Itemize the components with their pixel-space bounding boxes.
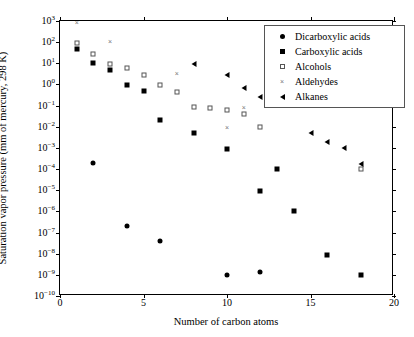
y-axis-tick-label: 10−6 bbox=[38, 206, 55, 216]
data-point bbox=[358, 167, 363, 172]
data-point bbox=[108, 67, 113, 72]
legend-label: Aldehydes bbox=[295, 76, 338, 87]
data-point: × bbox=[224, 123, 231, 130]
y-axis-tick-right bbox=[392, 190, 396, 191]
data-point bbox=[174, 89, 179, 94]
data-point bbox=[258, 269, 263, 274]
x-axis-tick-label: 10 bbox=[222, 298, 232, 308]
legend-label: Alkanes bbox=[295, 91, 328, 102]
data-point bbox=[158, 83, 163, 88]
y-axis-tick-label: 10−9 bbox=[38, 270, 55, 280]
data-point bbox=[108, 62, 113, 67]
data-point bbox=[191, 104, 196, 109]
data-point bbox=[124, 83, 129, 88]
data-point bbox=[124, 66, 129, 71]
data-point bbox=[225, 272, 230, 277]
legend-label: Dicarboxylic acids bbox=[295, 31, 370, 42]
data-point bbox=[358, 272, 363, 277]
legend-entry: Alkanes bbox=[269, 89, 400, 104]
legend-marker-cross-icon: × bbox=[269, 78, 295, 85]
data-point bbox=[208, 105, 213, 110]
legend-marker-filled-circle-icon bbox=[269, 34, 295, 39]
legend-marker-left-triangle-icon bbox=[269, 94, 295, 100]
data-point bbox=[225, 72, 230, 78]
y-axis-tick-right bbox=[392, 254, 396, 255]
y-axis-tick-right bbox=[392, 21, 396, 22]
y-axis-tick-label: 10−5 bbox=[38, 185, 55, 195]
legend-entry: ×Aldehydes bbox=[269, 74, 400, 89]
data-point bbox=[241, 112, 246, 117]
data-point bbox=[275, 167, 280, 172]
x-axis-tick-label: 20 bbox=[389, 298, 399, 308]
legend-entry: Alcohols bbox=[269, 59, 400, 74]
y-axis-title: Saturation vapor pressure (mm of mercury… bbox=[0, 23, 8, 293]
data-point bbox=[325, 139, 330, 145]
y-axis-tick-right bbox=[392, 169, 396, 170]
data-point: × bbox=[107, 38, 114, 45]
data-point bbox=[325, 252, 330, 257]
y-axis-tick-label: 100 bbox=[42, 79, 56, 89]
data-point bbox=[291, 209, 296, 214]
data-point: × bbox=[73, 21, 80, 25]
chart-legend: Dicarboxylic acidsCarboxylic acidsAlcoho… bbox=[264, 25, 405, 108]
data-point bbox=[225, 146, 230, 151]
y-axis-tick-right bbox=[392, 233, 396, 234]
data-point bbox=[158, 118, 163, 123]
legend-marker-open-square-icon bbox=[269, 64, 295, 69]
legend-entry: Dicarboxylic acids bbox=[269, 29, 400, 44]
legend-entry: Carboxylic acids bbox=[269, 44, 400, 59]
data-point bbox=[258, 94, 263, 100]
data-point bbox=[74, 40, 79, 45]
y-axis-tick-right bbox=[392, 127, 396, 128]
y-axis-tick-label: 101 bbox=[42, 58, 56, 68]
y-axis-tick-right bbox=[392, 211, 396, 212]
data-point bbox=[225, 108, 230, 113]
data-point bbox=[74, 46, 79, 51]
x-axis-tick-label: 15 bbox=[306, 298, 316, 308]
chart-figure: Saturation vapor pressure (mm of mercury… bbox=[0, 0, 414, 337]
legend-label: Alcohols bbox=[295, 61, 331, 72]
x-axis-tick-label: 0 bbox=[58, 298, 63, 308]
data-point bbox=[191, 61, 196, 67]
data-point bbox=[141, 89, 146, 94]
y-axis-tick-label: 103 bbox=[42, 16, 56, 26]
data-point bbox=[91, 52, 96, 57]
data-point bbox=[158, 238, 163, 243]
y-axis-tick-label: 10−8 bbox=[38, 249, 55, 259]
data-point bbox=[191, 131, 196, 136]
data-point: × bbox=[240, 103, 247, 110]
x-axis-tick-label: 5 bbox=[141, 298, 146, 308]
data-point bbox=[141, 73, 146, 78]
data-point bbox=[258, 124, 263, 129]
data-point: × bbox=[173, 69, 180, 76]
data-point bbox=[91, 160, 96, 165]
y-axis-tick-right bbox=[392, 148, 396, 149]
y-axis-tick-right bbox=[392, 275, 396, 276]
data-point bbox=[308, 130, 313, 136]
data-point bbox=[241, 85, 246, 91]
y-axis-tick-label: 10−10 bbox=[34, 291, 55, 301]
y-axis-tick-label: 10−1 bbox=[38, 101, 55, 111]
legend-label: Carboxylic acids bbox=[295, 46, 362, 57]
y-axis-tick-label: 10−7 bbox=[38, 228, 55, 238]
x-axis-title: Number of carbon atoms bbox=[59, 316, 393, 327]
data-point bbox=[124, 224, 129, 229]
data-point bbox=[258, 189, 263, 194]
y-axis-tick-label: 10−3 bbox=[38, 143, 55, 153]
y-axis-tick-label: 102 bbox=[42, 37, 56, 47]
legend-marker-filled-square-icon bbox=[269, 49, 295, 54]
y-axis-tick-label: 10−4 bbox=[38, 164, 55, 174]
data-point bbox=[91, 61, 96, 66]
y-axis-tick-label: 10−2 bbox=[38, 122, 55, 132]
data-point bbox=[358, 161, 363, 167]
x-axis-tick-top bbox=[394, 17, 395, 21]
data-point bbox=[341, 145, 346, 151]
